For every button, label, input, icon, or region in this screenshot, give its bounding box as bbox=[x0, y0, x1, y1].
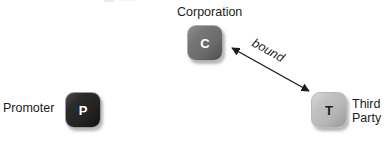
node-third-party[interactable]: T bbox=[311, 92, 347, 128]
diagram-canvas: bound Promoter P Corporation C T Third P… bbox=[0, 0, 392, 142]
node-label-third-party: Third Party bbox=[352, 97, 381, 125]
node-label-corporation: Corporation bbox=[177, 5, 242, 19]
node-promoter[interactable]: P bbox=[65, 92, 101, 128]
node-glyph-promoter: P bbox=[79, 103, 88, 116]
node-label-promoter: Promoter bbox=[3, 101, 54, 115]
node-corporation[interactable]: C bbox=[187, 25, 223, 61]
node-glyph-corporation: C bbox=[200, 36, 209, 49]
node-glyph-third-party: T bbox=[325, 103, 333, 116]
